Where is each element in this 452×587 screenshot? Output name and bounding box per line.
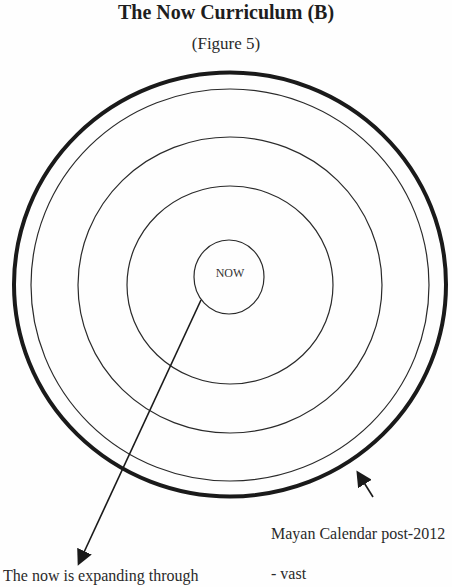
now-label: NOW [196, 266, 264, 281]
ring-3 [127, 186, 333, 384]
mayan-calendar-arrow [358, 473, 373, 497]
expansion-caption: The now is expanding through [3, 566, 199, 586]
ring-2 [78, 137, 382, 433]
concentric-circles-diagram [0, 0, 452, 587]
callout-heading: Mayan Calendar post-2012 [271, 525, 445, 542]
mayan-calendar-callout: Mayan Calendar post-2012 - vast - open -… [263, 504, 445, 587]
ring-1 [31, 89, 429, 481]
callout-item-vast: - vast [263, 564, 445, 584]
